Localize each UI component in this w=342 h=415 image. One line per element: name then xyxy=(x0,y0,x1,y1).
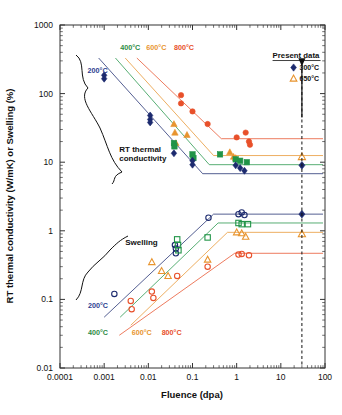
x-axis-title: Fluence (dpa) xyxy=(161,389,223,400)
annotation-swelling: Swelling xyxy=(125,238,158,247)
temperature-label-upper-800C: 800°C xyxy=(174,43,194,52)
data-point xyxy=(178,101,183,106)
y-tick-label: 10 xyxy=(44,157,54,167)
data-point xyxy=(205,121,210,126)
x-tick-label: 0.01 xyxy=(140,372,157,382)
annotation-rt-thermal-conductivity: RT thermal xyxy=(119,145,161,154)
x-tick-label: 100 xyxy=(318,372,332,382)
data-point xyxy=(243,130,248,135)
data-point xyxy=(237,158,242,163)
scatter-plot: RT thermalconductivitySwelling 0.00010.0… xyxy=(0,0,342,415)
data-point xyxy=(247,142,252,147)
legend-label-300C: 300°C xyxy=(300,64,320,71)
legend-label-650C: 650°C xyxy=(300,75,320,82)
data-point xyxy=(178,92,183,97)
x-tick-label: 0.001 xyxy=(94,372,116,382)
figure-background xyxy=(0,0,342,415)
temperature-label-upper-200C: 200°C xyxy=(88,66,108,75)
figure-container: RT thermalconductivitySwelling 0.00010.0… xyxy=(0,0,342,415)
x-tick-label: 0.1 xyxy=(187,372,199,382)
y-axis-title: RT thermal conductivity (W/mK) or Swelli… xyxy=(4,89,15,304)
x-tick-label: 0.0001 xyxy=(47,372,73,382)
temperature-label-lower-800C: 800°C xyxy=(162,328,182,337)
x-tick-label: 1 xyxy=(234,372,239,382)
y-tick-label: 1 xyxy=(48,226,53,236)
x-tick-label: 10 xyxy=(276,372,286,382)
y-tick-label: 100 xyxy=(39,89,53,99)
temperature-label-lower-400C: 400°C xyxy=(88,328,108,337)
temperature-label-upper-600C: 600°C xyxy=(146,43,166,52)
y-tick-label: 0.1 xyxy=(41,294,53,304)
annotation-rt-thermal-conductivity-line2: conductivity xyxy=(119,154,167,163)
data-point xyxy=(190,109,195,114)
temperature-label-upper-400C: 400°C xyxy=(120,43,140,52)
temperature-label-lower-600C: 600°C xyxy=(132,328,152,337)
data-point xyxy=(172,144,177,149)
data-point xyxy=(244,160,249,165)
data-point xyxy=(234,135,239,140)
temperature-label-lower-200C: 200°C xyxy=(88,301,108,310)
data-point xyxy=(217,152,222,157)
legend-title: Present data xyxy=(273,51,320,60)
y-tick-label: 0.01 xyxy=(36,363,53,373)
y-tick-label: 1000 xyxy=(34,20,53,30)
